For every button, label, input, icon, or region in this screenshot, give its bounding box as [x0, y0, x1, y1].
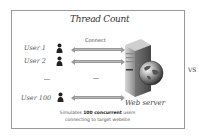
user-icon [56, 43, 63, 53]
user-icon [56, 56, 63, 66]
connection-arrow [75, 48, 121, 51]
connection-arrow [75, 60, 121, 63]
user-1-label: User 1 [24, 44, 46, 52]
vs-label: VS [188, 66, 196, 73]
diagram-title: Thread Count [70, 14, 129, 24]
globe-icon [138, 60, 164, 86]
caption-line2: connecting to target website [65, 117, 130, 122]
web-server-label: Web server [125, 99, 165, 107]
ellipsis-dash [93, 78, 99, 79]
user-2-label: User 2 [24, 57, 46, 65]
caption: Simulates 100 concurrent users connectin… [40, 110, 155, 123]
caption-suffix: users [122, 110, 136, 115]
caption-bold: 100 concurrent [83, 110, 122, 115]
connect-label: Connect [85, 37, 106, 43]
ellipsis-dash [44, 79, 50, 80]
user-icon [57, 92, 64, 102]
connection-arrow [75, 96, 121, 99]
user-100-label: User 100 [21, 94, 51, 102]
caption-prefix: Simulates [60, 110, 84, 115]
